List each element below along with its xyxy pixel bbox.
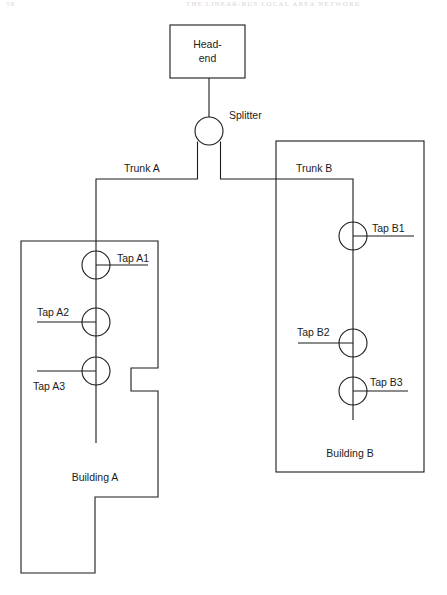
tap-b3-label: Tap B3 xyxy=(370,376,403,388)
building-a-label: Building A xyxy=(72,471,119,483)
trunk-b-cable xyxy=(221,142,354,421)
tap-b1: Tap B1 xyxy=(339,222,414,250)
tap-b2: Tap B2 xyxy=(297,326,367,357)
splitter-symbol xyxy=(195,117,223,145)
tap-a3: Tap A3 xyxy=(33,357,110,392)
tap-b1-label: Tap B1 xyxy=(372,222,405,234)
tap-a2-label: Tap A2 xyxy=(37,306,69,318)
trunk-b-label: Trunk B xyxy=(296,162,332,174)
tap-a1-label: Tap A1 xyxy=(117,252,149,264)
splitter-label: Splitter xyxy=(229,109,262,121)
headend-label-line2: end xyxy=(199,52,217,64)
headend-label-line1: Head- xyxy=(193,38,222,50)
tap-a3-label: Tap A3 xyxy=(33,380,65,392)
tap-b3: Tap B3 xyxy=(339,376,408,405)
building-b-outline xyxy=(276,141,424,472)
tap-a1: Tap A1 xyxy=(82,251,149,279)
diagram-page: 58 THE LINEAR-BUS LOCAL AREA NETWORK Hea… xyxy=(0,0,447,595)
building-a-outline xyxy=(21,241,158,573)
building-b-label: Building B xyxy=(326,447,373,459)
trunk-a-cable xyxy=(96,142,198,444)
tap-a2: Tap A2 xyxy=(37,306,110,336)
trunk-a-label: Trunk A xyxy=(124,162,160,174)
network-topology-diagram: Head- end Splitter Trunk A Trunk B Build… xyxy=(0,0,447,595)
tap-b2-label: Tap B2 xyxy=(297,326,330,338)
